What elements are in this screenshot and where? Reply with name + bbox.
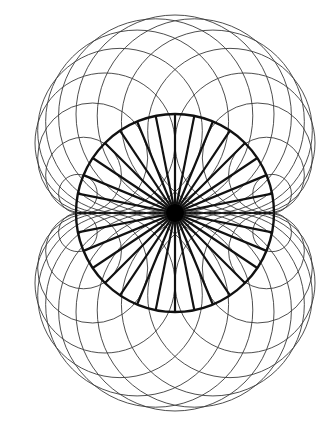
spoke (105, 143, 175, 213)
diagram-canvas (0, 0, 328, 439)
nephroid-diagram (0, 0, 328, 439)
spoke (175, 213, 245, 283)
spoke (105, 213, 175, 283)
spoke (175, 143, 245, 213)
center-point (166, 204, 184, 222)
